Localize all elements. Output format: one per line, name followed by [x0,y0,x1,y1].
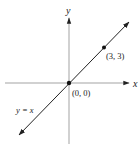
origin-label: (0, 0) [72,88,91,98]
x-axis-label: x [132,78,138,89]
graph-canvas: y x (0, 0) (3, 3) y = x [0,0,140,145]
point-3-3 [102,46,106,50]
point-label: (3, 3) [106,51,125,61]
y-axis-label: y [65,5,71,16]
line-label: y = x [15,105,34,115]
line-y-equals-x [19,22,129,135]
point-origin [67,81,71,85]
